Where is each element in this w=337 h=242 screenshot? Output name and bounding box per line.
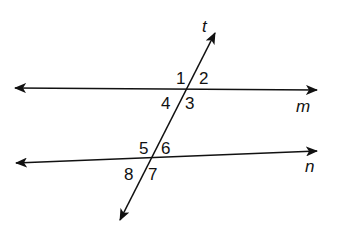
- angle-label-8: 8: [124, 165, 133, 184]
- transversal-t: [120, 33, 215, 220]
- angle-label-2: 2: [199, 69, 208, 88]
- label-line-n: n: [305, 157, 314, 176]
- line-m: [15, 88, 317, 90]
- angle-label-3: 3: [185, 94, 194, 113]
- parallel-lines-transversal-diagram: t m n 1 2 4 3 5 6 8 7: [0, 0, 337, 242]
- angle-label-6: 6: [161, 139, 170, 158]
- angle-label-7: 7: [148, 165, 157, 184]
- angle-label-4: 4: [161, 94, 170, 113]
- angle-label-5: 5: [139, 139, 148, 158]
- angle-label-1: 1: [176, 69, 185, 88]
- label-line-t: t: [202, 17, 208, 36]
- label-line-m: m: [296, 97, 310, 116]
